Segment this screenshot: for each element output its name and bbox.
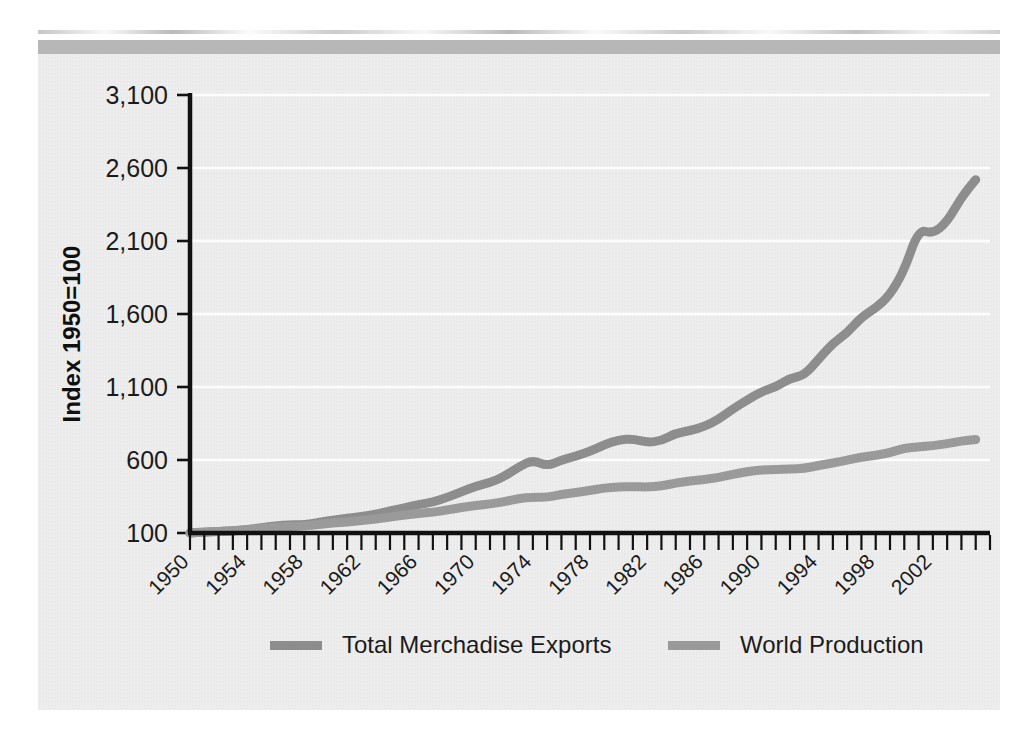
x-axis-tick-labels: 1950195419581962196619701974197819821986… — [144, 549, 936, 599]
x-tick-label-1974: 1974 — [486, 549, 536, 599]
legend-swatch-0 — [270, 641, 322, 650]
chart-figure-panel: 1006001,1001,6002,1002,6003,100 19501954… — [38, 54, 1000, 710]
y-tick-label-600: 600 — [126, 446, 168, 474]
chart-legend: Total Merchadise ExportsWorld Production — [270, 631, 924, 658]
y-tick-label-2600: 2,600 — [105, 154, 168, 182]
x-tick-label-2002: 2002 — [886, 550, 935, 599]
x-tick-label-1982: 1982 — [601, 550, 650, 599]
legend-label-0: Total Merchadise Exports — [342, 631, 611, 658]
x-tick-label-1950: 1950 — [144, 550, 193, 599]
y-axis-title: Index 1950=100 — [58, 246, 85, 423]
legend-label-1: World Production — [740, 631, 924, 658]
line-chart: 1006001,1001,6002,1002,6003,100 19501954… — [38, 54, 1000, 710]
data-series — [190, 180, 976, 533]
x-tick-label-1978: 1978 — [544, 550, 593, 599]
y-tick-label-1100: 1,100 — [105, 373, 168, 401]
gridlines — [190, 95, 990, 460]
x-tick-label-1954: 1954 — [201, 549, 251, 599]
y-axis-title-text: Index 1950=100 — [58, 246, 85, 423]
x-axis-ticks — [190, 535, 990, 550]
legend-swatch-1 — [668, 641, 720, 650]
series-line-0 — [190, 180, 976, 533]
y-tick-label-2100: 2,100 — [105, 227, 168, 255]
y-axis-tick-labels: 1006001,1001,6002,1002,6003,100 — [105, 81, 168, 547]
x-tick-label-1966: 1966 — [372, 550, 421, 599]
x-tick-label-1970: 1970 — [429, 550, 478, 599]
y-tick-label-100: 100 — [126, 519, 168, 547]
x-tick-label-1994: 1994 — [772, 549, 822, 599]
x-tick-label-1962: 1962 — [315, 550, 364, 599]
x-tick-label-1958: 1958 — [258, 550, 307, 599]
x-tick-label-1986: 1986 — [658, 550, 707, 599]
y-tick-label-3100: 3,100 — [105, 81, 168, 109]
y-tick-label-1600: 1,600 — [105, 300, 168, 328]
scan-smudge-line — [38, 30, 1000, 34]
header-rule-bar — [38, 40, 1000, 54]
x-tick-label-1990: 1990 — [715, 550, 764, 599]
x-tick-label-1998: 1998 — [829, 550, 878, 599]
